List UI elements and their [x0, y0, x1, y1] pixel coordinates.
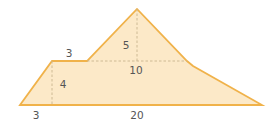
triangle-height-label: 5	[123, 39, 130, 51]
trapezoid-height-label: 4	[60, 78, 67, 90]
bottom-base-label: 20	[130, 109, 143, 121]
composite-polygon	[20, 9, 262, 105]
composite-shape-diagram: 3 5 10 4 3 20	[0, 0, 269, 125]
triangle-base-label: 10	[129, 64, 142, 76]
top-left-width-label: 3	[66, 47, 73, 59]
bottom-left-offset-label: 3	[33, 109, 40, 121]
